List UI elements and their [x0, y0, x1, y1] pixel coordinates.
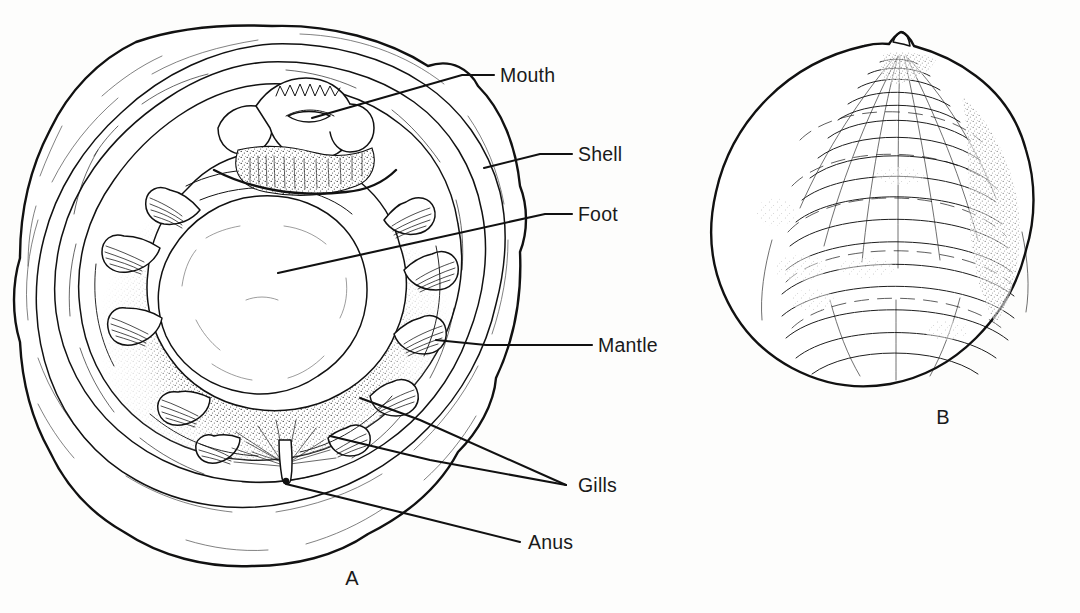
- label-text-anus: Anus: [528, 531, 573, 553]
- clam-anatomy-figure: A: [0, 0, 1080, 613]
- label-text-mantle: Mantle: [598, 334, 658, 356]
- panel-a-label: A: [345, 567, 359, 589]
- panel-b-label: B: [936, 406, 949, 428]
- label-text-mouth: Mouth: [500, 64, 555, 86]
- label-text-shell: Shell: [578, 143, 622, 165]
- label-text-foot: Foot: [578, 203, 618, 225]
- label-text-gills: Gills: [578, 474, 617, 496]
